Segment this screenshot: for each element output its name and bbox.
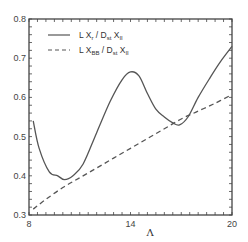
legend-label-dashed: L XBB / Dst XII xyxy=(79,45,129,56)
x-tick-label: 20 xyxy=(227,219,237,229)
dashed-series-line xyxy=(33,95,230,209)
plot-frame xyxy=(29,19,232,215)
x-tick-labels: 81420 xyxy=(26,219,237,229)
chart: 0.30.40.50.60.70.8 81420 Λ L Xr / Dst XI… xyxy=(0,0,248,242)
x-tick-label: 14 xyxy=(125,219,135,229)
y-tick-label: 0.7 xyxy=(13,53,26,63)
y-tick-labels: 0.30.40.50.60.70.8 xyxy=(13,14,26,220)
solid-series-line xyxy=(33,46,232,179)
y-tick-label: 0.8 xyxy=(13,14,26,24)
legend: L Xr / Dst XII L XBB / Dst XII xyxy=(48,30,129,56)
axis-ticks xyxy=(29,19,232,215)
y-tick-label: 0.4 xyxy=(13,171,26,181)
x-axis-label: Λ xyxy=(145,227,154,238)
legend-label-solid: L Xr / Dst XII xyxy=(79,30,123,41)
y-tick-label: 0.6 xyxy=(13,92,26,102)
x-tick-label: 8 xyxy=(26,219,31,229)
y-tick-label: 0.3 xyxy=(13,210,26,220)
series-group xyxy=(33,46,232,209)
y-tick-label: 0.5 xyxy=(13,132,26,142)
